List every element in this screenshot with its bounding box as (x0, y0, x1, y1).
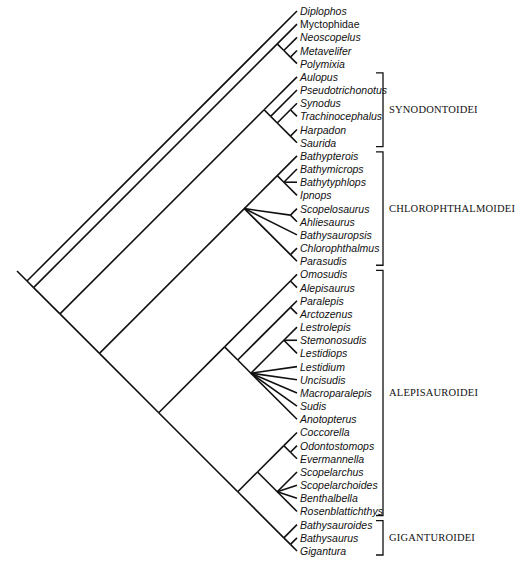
branch (290, 446, 297, 453)
branch (271, 116, 278, 123)
taxon-label: Omosudis (300, 268, 347, 280)
taxon-label: Coccorella (300, 426, 350, 438)
taxon-label: Pseudotrichonotus (300, 84, 387, 96)
taxon-label: Macroparalepis (300, 387, 372, 399)
branch (251, 367, 297, 374)
group-label: GIGANTUROIDEI (389, 532, 475, 544)
taxon-label: Arctozenus (300, 308, 353, 320)
branch (238, 492, 284, 538)
branch (284, 327, 297, 340)
branch (290, 215, 297, 222)
taxon-label: Scopelosaurus (300, 203, 369, 215)
branch (238, 472, 258, 492)
branch (17, 271, 27, 281)
group-label: CHLOROPHTHALMOIDEI (389, 203, 515, 215)
branch (284, 538, 291, 545)
taxon-label: Bathysaurus (300, 532, 358, 544)
taxon-label: Alepisaurus (300, 282, 355, 294)
branch (290, 281, 297, 288)
branch (257, 446, 283, 472)
branch (290, 103, 297, 110)
taxon-label: Evermannella (300, 453, 364, 465)
branch (277, 110, 290, 123)
taxon-label: Rosenblattichthys (300, 505, 383, 517)
branch (99, 209, 244, 354)
taxon-label: Aulopus (300, 71, 338, 83)
branch (264, 110, 271, 117)
branch (284, 446, 291, 453)
branch (284, 169, 297, 182)
branch (251, 340, 284, 373)
taxon-label: Harpadon (300, 124, 346, 136)
branch (284, 51, 291, 58)
branch (290, 57, 297, 64)
branch (225, 347, 238, 360)
taxon-label: Diplophos (300, 5, 347, 17)
branch (290, 248, 297, 255)
branch (60, 110, 264, 314)
taxon-label: Odontostomops (300, 440, 374, 452)
taxon-label: Neoscopelus (300, 31, 361, 43)
branch (244, 209, 290, 255)
branch (290, 136, 297, 143)
branch (284, 37, 297, 50)
branch (290, 544, 297, 551)
taxon-label: Lestidiops (300, 347, 347, 359)
branch (277, 44, 284, 51)
branch (290, 307, 297, 314)
taxon-label: Bathysauropsis (300, 229, 372, 241)
branch (277, 123, 290, 136)
branch (290, 274, 297, 281)
group-label: ALEPISAUROIDEI (389, 387, 478, 399)
taxon-label: Bathysauroides (300, 519, 372, 531)
group-label: SYNODONTOIDEI (389, 104, 478, 116)
branch (264, 77, 297, 110)
taxon-label: Lestidium (300, 361, 345, 373)
taxon-label: Ipnops (300, 189, 332, 201)
branch (290, 255, 297, 262)
branch (34, 44, 278, 288)
branch (238, 307, 291, 360)
taxon-label: Gigantura (300, 545, 346, 557)
taxon-label: Saurida (300, 137, 336, 149)
taxon-label: Uncisudis (300, 374, 346, 386)
branch (27, 11, 297, 281)
branch (290, 301, 297, 308)
branch (27, 281, 34, 288)
taxon-label: Bathypterois (300, 150, 358, 162)
branch (290, 110, 297, 117)
branch (225, 281, 291, 347)
branch (34, 288, 60, 314)
branch (60, 314, 100, 354)
branch (284, 432, 297, 445)
taxon-label: Scopelarchus (300, 466, 364, 478)
taxon-label: Bathymicrops (300, 163, 364, 175)
branch (251, 373, 297, 419)
branch (290, 209, 297, 216)
taxon-label: Trachinocephalus (300, 110, 382, 122)
branch (277, 176, 284, 183)
taxon-label: Metavelifer (300, 45, 351, 57)
branch (284, 182, 297, 195)
branch (284, 340, 297, 353)
branch (290, 51, 297, 58)
taxon-label: Scopelarchoides (300, 479, 378, 491)
group-bracket (376, 521, 383, 555)
taxon-label: Sudis (300, 400, 326, 412)
taxon-label: Synodus (300, 97, 341, 109)
taxon-label: Lestrolepis (300, 321, 351, 333)
taxon-label: Paralepis (300, 295, 344, 307)
branch (290, 130, 297, 137)
branch (290, 538, 297, 545)
taxon-label: Anotopterus (300, 413, 357, 425)
taxon-label: Parasudis (300, 255, 347, 267)
taxon-label: Ahliesaurus (300, 216, 355, 228)
taxon-label: Bathytyphlops (300, 176, 366, 188)
branch (99, 353, 158, 412)
taxon-label: Polymixia (300, 58, 345, 70)
branch (257, 472, 277, 492)
branch (238, 360, 251, 373)
branch (159, 413, 238, 492)
branch (284, 525, 297, 538)
